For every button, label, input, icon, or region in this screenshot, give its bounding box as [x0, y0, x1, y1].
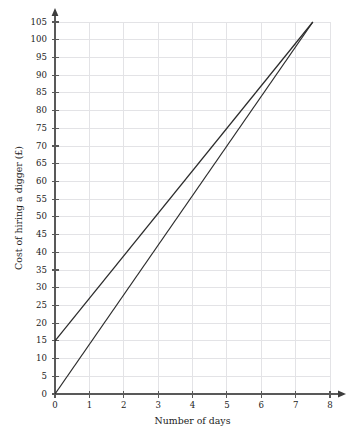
y-tick-label: 55: [36, 194, 47, 204]
y-tick-label: 85: [36, 87, 47, 97]
y-tick-label: 60: [36, 176, 47, 186]
y-tick-label: 70: [36, 141, 47, 151]
y-tick-label: 45: [36, 229, 47, 239]
y-tick-label: 20: [36, 318, 47, 328]
chart-container: 0510152025303540455055606570758085909510…: [0, 0, 361, 442]
y-tick-label: 15: [36, 335, 47, 345]
y-tick-label: 105: [31, 17, 47, 27]
y-tick-label: 90: [36, 70, 47, 80]
x-axis-title: Number of days: [155, 415, 231, 426]
y-tick-label: 95: [36, 52, 47, 62]
x-tick-label: 7: [293, 400, 298, 410]
y-tick-label: 10: [36, 353, 47, 363]
x-tick-label: 8: [327, 400, 332, 410]
y-tick-label: 30: [36, 282, 47, 292]
x-tick-label: 2: [121, 400, 126, 410]
y-tick-label: 0: [42, 389, 47, 399]
y-tick-label: 5: [42, 371, 47, 381]
y-tick-label: 40: [36, 247, 47, 257]
y-tick-label: 25: [36, 300, 47, 310]
x-tick-label: 5: [224, 400, 229, 410]
x-tick-label: 4: [190, 400, 196, 410]
x-tick-label: 1: [87, 400, 92, 410]
y-tick-label: 50: [36, 211, 47, 221]
x-tick-label: 3: [155, 400, 160, 410]
y-tick-label: 65: [36, 158, 47, 168]
y-tick-label: 35: [36, 265, 47, 275]
y-tick-label: 75: [36, 123, 47, 133]
y-axis-title: Cost of hiring a digger (£): [13, 146, 24, 270]
x-tick-label: 6: [259, 400, 264, 410]
y-tick-label: 80: [36, 105, 47, 115]
y-tick-label: 100: [31, 34, 47, 44]
cost-vs-days-line-chart: 0510152025303540455055606570758085909510…: [0, 0, 361, 442]
x-tick-label: 0: [52, 400, 57, 410]
